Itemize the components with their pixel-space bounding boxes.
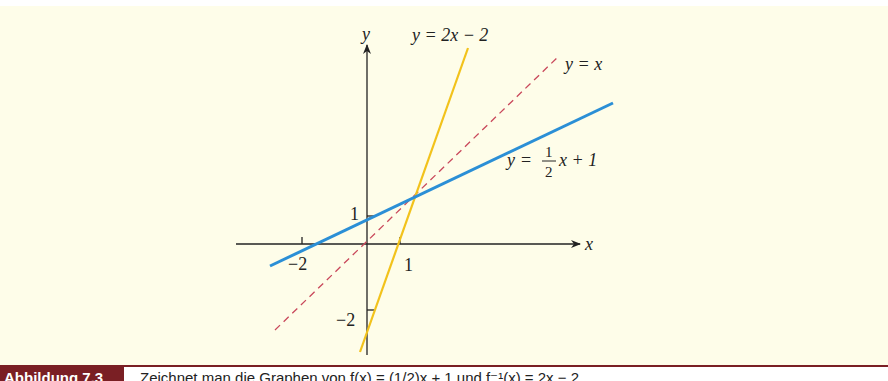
label-blue-numerator: 1 bbox=[545, 144, 553, 160]
label-blue-eq: = bbox=[521, 150, 531, 170]
series-line-y-half-x-plus-1 bbox=[270, 103, 613, 266]
x-axis-label: x bbox=[584, 234, 593, 254]
label-y-2x-minus-2: y = 2x − 2 bbox=[410, 25, 488, 45]
label-y-equals-x: y = x bbox=[563, 54, 602, 74]
y-axis-label: y bbox=[360, 24, 370, 44]
x-tick-label-1: 1 bbox=[404, 255, 413, 275]
label-blue-rest: x + 1 bbox=[558, 150, 597, 170]
caption-label: Abbildung 7.3 bbox=[0, 367, 124, 381]
x-tick-label-neg2: −2 bbox=[288, 254, 307, 274]
figure-panel: x y −2 1 1 −2 y = 2x − 2 y = x y = 1 2 x… bbox=[0, 6, 888, 365]
plot-area: x y −2 1 1 −2 y = 2x − 2 y = x y = 1 2 x… bbox=[0, 6, 888, 365]
figure-caption: Abbildung 7.3 Zeichnet man die Graphen v… bbox=[0, 367, 888, 381]
y-tick-label-1: 1 bbox=[350, 204, 359, 224]
series-line-y-2x-minus-2 bbox=[360, 48, 468, 352]
y-tick-label-neg2: −2 bbox=[336, 310, 355, 330]
label-blue-y: y bbox=[505, 150, 515, 170]
caption-text: Zeichnet man die Graphen von f(x) = (1/2… bbox=[140, 367, 598, 381]
label-blue-denominator: 2 bbox=[545, 164, 553, 180]
